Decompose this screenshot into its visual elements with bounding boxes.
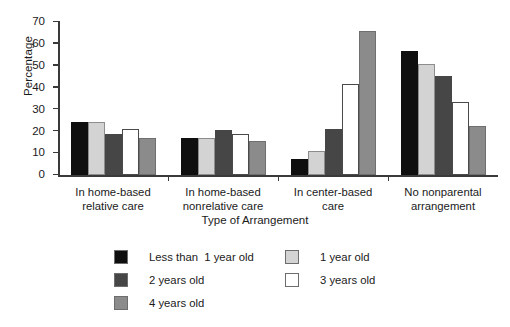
- y-tick-label: 40: [32, 81, 45, 93]
- bar-group: [71, 22, 156, 175]
- y-tick: 40: [53, 86, 58, 87]
- bar: [342, 84, 359, 175]
- bar: [401, 51, 418, 175]
- y-tick-label: 10: [32, 146, 45, 158]
- x-tick: [278, 175, 279, 181]
- legend-swatch: [285, 250, 299, 264]
- legend-item: 4 years old: [114, 295, 204, 310]
- x-tick: [388, 175, 389, 181]
- bar: [232, 134, 249, 175]
- y-tick: 30: [53, 108, 58, 109]
- bar: [181, 138, 198, 175]
- legend-item: Less than 1 year old: [114, 249, 254, 264]
- bar: [308, 151, 325, 175]
- legend-item: 1 year old: [285, 249, 370, 264]
- y-tick: 60: [53, 42, 58, 43]
- legend-swatch: [285, 273, 299, 287]
- bar-chart-figure: Percentage 010203040506070 In home-based…: [0, 0, 510, 327]
- bar: [88, 122, 105, 175]
- bar: [359, 31, 376, 175]
- bar: [249, 141, 266, 175]
- bar: [325, 129, 342, 175]
- bar: [139, 138, 156, 175]
- legend-label: 2 years old: [149, 274, 204, 286]
- bar: [418, 64, 435, 175]
- legend-swatch: [114, 250, 128, 264]
- legend-swatch: [114, 296, 128, 310]
- legend-label: Less than 1 year old: [149, 251, 254, 263]
- legend-swatch: [114, 273, 128, 287]
- x-axis-title: Type of Arrangement: [0, 214, 510, 226]
- y-tick-label: 30: [32, 103, 45, 115]
- y-tick-label: 20: [32, 125, 45, 137]
- y-tick: 70: [53, 21, 58, 22]
- legend-label: 4 years old: [149, 297, 204, 309]
- bar: [198, 138, 215, 175]
- y-tick: 0: [53, 174, 58, 175]
- legend-label: 1 year old: [320, 251, 370, 263]
- bar: [122, 129, 139, 175]
- bar: [469, 126, 486, 175]
- y-tick-label: 60: [32, 37, 45, 49]
- y-tick: 10: [53, 152, 58, 153]
- category-label: No nonparentalarrangement: [373, 186, 510, 213]
- category-label-line: No nonparental: [373, 186, 510, 200]
- plot-area: 010203040506070: [58, 22, 498, 175]
- bar: [71, 122, 88, 175]
- bar-group: [401, 22, 486, 175]
- y-tick-label: 50: [32, 59, 45, 71]
- bar-group: [181, 22, 266, 175]
- bar: [105, 134, 122, 175]
- y-tick-label: 70: [32, 15, 45, 27]
- category-label-line: arrangement: [373, 200, 510, 214]
- bar: [435, 76, 452, 175]
- y-tick-label: 0: [39, 168, 45, 180]
- y-tick: 50: [53, 64, 58, 65]
- legend-label: 3 years old: [320, 274, 375, 286]
- bar-group: [291, 22, 376, 175]
- bar: [452, 102, 469, 175]
- y-axis-line: [58, 21, 60, 176]
- legend-item: 2 years old: [114, 272, 204, 287]
- chart-legend: Less than 1 year old1 year old2 years ol…: [114, 249, 404, 313]
- bar: [215, 130, 232, 175]
- y-tick: 20: [53, 130, 58, 131]
- x-tick: [168, 175, 169, 181]
- bar: [291, 159, 308, 175]
- legend-item: 3 years old: [285, 272, 375, 287]
